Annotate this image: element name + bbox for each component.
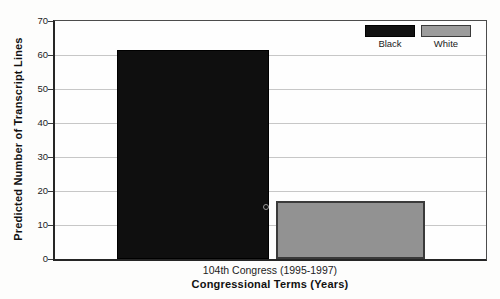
x-tick-label: 104th Congress (1995-1997)	[53, 264, 487, 276]
x-axis-title: Congressional Terms (Years)	[53, 278, 487, 290]
legend-label-white: White	[434, 39, 458, 49]
y-tick-label: 10	[18, 220, 48, 230]
scan-speck-artifact	[263, 204, 269, 210]
plot-area: Black White	[53, 20, 487, 261]
y-tick-label: 30	[18, 152, 48, 162]
bar-black-series	[117, 50, 269, 259]
y-tick-label: 0	[18, 254, 48, 264]
y-tick-label: 70	[18, 16, 48, 26]
legend: Black White	[365, 25, 471, 49]
legend-swatch-black	[365, 25, 415, 37]
bar-chart-figure: Predicted Number of Transcript Lines 010…	[0, 0, 500, 299]
y-tick-label: 20	[18, 186, 48, 196]
legend-item-white: White	[421, 25, 471, 49]
y-tick-label: 40	[18, 118, 48, 128]
y-tick-label: 50	[18, 84, 48, 94]
legend-item-black: Black	[365, 25, 415, 49]
legend-swatch-white	[421, 25, 471, 37]
legend-label-black: Black	[378, 39, 401, 49]
bar-white-series	[276, 201, 425, 259]
y-tick-label: 60	[18, 50, 48, 60]
